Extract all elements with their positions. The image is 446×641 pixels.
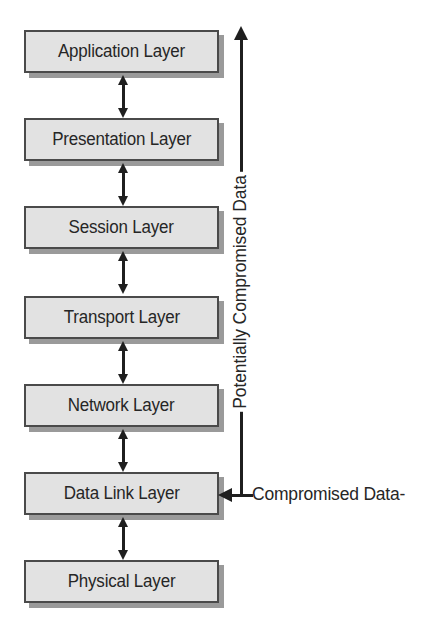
layer-label-physical: Physical Layer — [68, 571, 176, 592]
layer-label-network: Network Layer — [68, 395, 175, 416]
layer-box-physical[interactable]: Physical Layer — [24, 560, 219, 603]
connector-presentation-session — [118, 163, 128, 206]
arrow-down-icon — [118, 284, 128, 294]
layer-label-data-link: Data Link Layer — [63, 483, 179, 504]
connector-network-data-link — [118, 429, 128, 472]
arrow-left-icon-compromised — [218, 488, 232, 502]
layer-box-application[interactable]: Application Layer — [24, 30, 219, 73]
arrow-down-icon — [118, 550, 128, 560]
connector-transport-network — [118, 341, 128, 384]
compromised-arrow-shaft — [229, 494, 253, 497]
connector-shaft — [122, 258, 125, 287]
arrow-down-icon — [118, 108, 128, 118]
layer-label-application: Application Layer — [58, 41, 185, 62]
connector-shaft — [122, 82, 125, 111]
arrow-down-icon — [118, 374, 128, 384]
layer-box-transport[interactable]: Transport Layer — [24, 296, 219, 339]
layer-box-presentation[interactable]: Presentation Layer — [24, 118, 219, 161]
connector-data-link-physical — [118, 517, 128, 560]
potentially-compromised-data-label: Potentially Compromised Data — [232, 172, 250, 412]
layer-label-transport: Transport Layer — [63, 307, 179, 328]
layer-label-session: Session Layer — [69, 217, 174, 238]
osi-layer-diagram: Application Layer Presentation Layer Ses… — [0, 0, 446, 641]
compromised-data-label: Compromised Data- — [252, 484, 405, 505]
layer-label-presentation: Presentation Layer — [52, 129, 191, 150]
arrow-up-icon-potentially-compromised — [234, 26, 248, 40]
connector-application-presentation — [118, 75, 128, 118]
connector-shaft — [122, 436, 125, 465]
connector-shaft — [122, 348, 125, 377]
connector-shaft — [122, 170, 125, 199]
connector-session-transport — [118, 251, 128, 294]
layer-box-session[interactable]: Session Layer — [24, 206, 219, 249]
arrow-down-icon — [118, 462, 128, 472]
layer-box-data-link[interactable]: Data Link Layer — [24, 472, 219, 515]
connector-shaft — [122, 524, 125, 553]
layer-box-network[interactable]: Network Layer — [24, 384, 219, 427]
arrow-down-icon — [118, 196, 128, 206]
